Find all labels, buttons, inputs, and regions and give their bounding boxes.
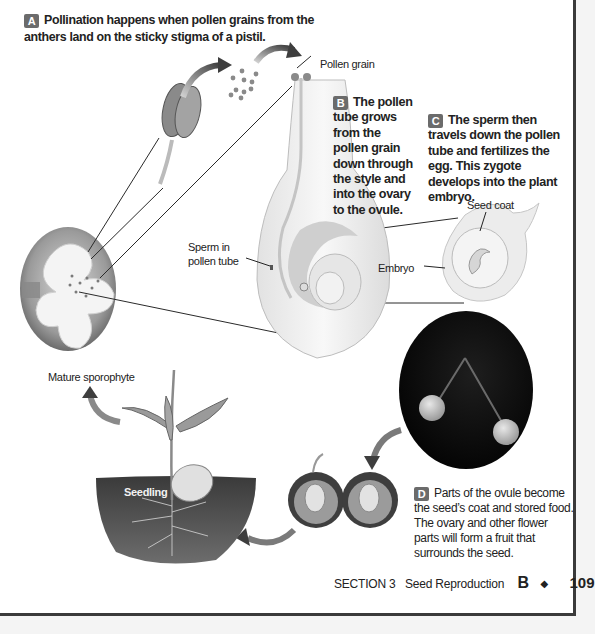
step-c-caption: CThe sperm then travels down the pollen … bbox=[428, 113, 566, 205]
footer-unit: B bbox=[518, 574, 530, 591]
halved-cherries bbox=[288, 454, 398, 528]
page-number: 109 bbox=[570, 574, 595, 591]
footer-section-title: Seed Reproduction bbox=[405, 577, 504, 591]
step-a-text: Pollination happens when pollen grains f… bbox=[24, 13, 314, 44]
label-seed-coat: Seed coat bbox=[467, 198, 514, 212]
step-a-badge: A bbox=[24, 14, 39, 28]
label-embryo: Embryo bbox=[378, 261, 414, 275]
step-b-caption: BThe pollen tube grows from the pollen g… bbox=[333, 95, 415, 218]
page-footer: SECTION 3 Seed Reproduction B ◆ 109 bbox=[334, 574, 595, 592]
label-mature-sporophyte: Mature sporophyte bbox=[48, 370, 135, 384]
step-b-text: The pollen tube grows from the pollen gr… bbox=[333, 95, 413, 217]
step-c-badge: C bbox=[428, 114, 443, 128]
label-sperm-line2: pollen tube bbox=[188, 254, 239, 268]
textbook-page: APollination happens when pollen grains … bbox=[0, 0, 576, 616]
flower-photo bbox=[20, 227, 116, 351]
step-c-text: The sperm then travels down the pollen t… bbox=[428, 113, 560, 204]
step-d-text: Parts of the ovule become the seed’s coa… bbox=[414, 486, 573, 560]
label-seedling: Seedling bbox=[124, 485, 167, 499]
seedling-in-soil bbox=[96, 370, 256, 564]
label-sperm-line1: Sperm in bbox=[188, 240, 239, 254]
step-a-caption: APollination happens when pollen grains … bbox=[24, 12, 324, 46]
cherries-photo bbox=[399, 311, 533, 469]
footer-section: SECTION 3 bbox=[334, 577, 396, 591]
label-sperm-in-pollen-tube: Sperm in pollen tube bbox=[188, 240, 239, 268]
step-d-caption: DParts of the ovule become the seed’s co… bbox=[414, 486, 574, 561]
footer-separator-icon: ◆ bbox=[540, 578, 548, 589]
label-pollen-grain: Pollen grain bbox=[320, 57, 375, 71]
step-d-badge: D bbox=[414, 487, 429, 501]
pollen-grains bbox=[229, 69, 259, 101]
step-b-badge: B bbox=[333, 96, 348, 110]
